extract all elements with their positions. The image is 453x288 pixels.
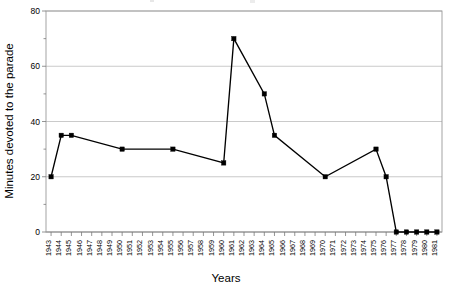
- x-tick-label-1953: 1953: [146, 240, 155, 256]
- x-axis-title: Years: [212, 272, 241, 284]
- x-tick-label-1962: 1962: [237, 240, 246, 256]
- x-tick-label-1948: 1948: [95, 240, 104, 256]
- y-tick-label-0: 0: [35, 227, 40, 237]
- x-tick-label-1972: 1972: [339, 240, 348, 256]
- x-tick-label-1971: 1971: [328, 240, 337, 256]
- x-tick-label-1956: 1956: [176, 240, 185, 256]
- data-point-1976: [384, 175, 388, 179]
- data-point-1977: [394, 230, 398, 234]
- x-tick-label-1957: 1957: [186, 240, 195, 256]
- x-tick-label-1963: 1963: [247, 240, 256, 256]
- x-tick-label-1943: 1943: [44, 240, 53, 256]
- data-point-1975: [374, 147, 378, 151]
- data-point-1950: [120, 147, 124, 151]
- data-point-1964: [262, 92, 266, 96]
- data-point-1981: [435, 230, 439, 234]
- x-tick-label-1974: 1974: [359, 240, 368, 256]
- x-tick-label-1967: 1967: [288, 240, 297, 256]
- x-tick-label-1969: 1969: [308, 240, 317, 256]
- data-point-1980: [425, 230, 429, 234]
- y-tick-label-40: 40: [31, 117, 41, 127]
- x-tick-label-1945: 1945: [64, 240, 73, 256]
- x-tick-label-1965: 1965: [267, 240, 276, 256]
- x-tick-label-1952: 1952: [135, 240, 144, 256]
- data-point-1965: [272, 133, 276, 137]
- y-tick-label-20: 20: [31, 172, 41, 182]
- x-tick-label-1973: 1973: [349, 240, 358, 256]
- y-tick-label-80: 80: [31, 6, 41, 16]
- x-tick-label-1966: 1966: [278, 240, 287, 256]
- x-tick-label-1950: 1950: [115, 240, 124, 256]
- data-point-1943: [49, 175, 53, 179]
- x-tick-label-1964: 1964: [257, 240, 266, 256]
- data-point-1979: [414, 230, 418, 234]
- x-axis-tick-labels: 1943194419451946194719481949195019511952…: [44, 240, 439, 256]
- x-tick-label-1970: 1970: [318, 240, 327, 256]
- chart-canvas: 020406080 194319441945194619471948194919…: [0, 0, 453, 288]
- x-tick-label-1944: 1944: [54, 240, 63, 256]
- x-tick-label-1951: 1951: [125, 240, 134, 256]
- x-tick-label-1947: 1947: [85, 240, 94, 256]
- y-tick-label-60: 60: [31, 61, 41, 71]
- data-point-1945: [69, 133, 73, 137]
- data-point-1944: [59, 133, 63, 137]
- x-tick-label-1959: 1959: [207, 240, 216, 256]
- x-tick-label-1960: 1960: [217, 240, 226, 256]
- x-tick-label-1968: 1968: [298, 240, 307, 256]
- x-tick-label-1975: 1975: [369, 240, 378, 256]
- data-point-1970: [323, 175, 327, 179]
- x-tick-label-1949: 1949: [105, 240, 114, 256]
- data-point-1960: [221, 161, 225, 165]
- line-chart: 020406080 194319441945194619471948194919…: [0, 0, 453, 288]
- data-point-1978: [404, 230, 408, 234]
- x-tick-label-1961: 1961: [227, 240, 236, 256]
- x-tick-label-1978: 1978: [399, 240, 408, 256]
- data-point-1955: [171, 147, 175, 151]
- x-tick-label-1976: 1976: [379, 240, 388, 256]
- x-tick-label-1977: 1977: [389, 240, 398, 256]
- x-tick-label-1981: 1981: [430, 240, 439, 256]
- x-tick-label-1980: 1980: [420, 240, 429, 256]
- x-tick-label-1955: 1955: [166, 240, 175, 256]
- x-tick-label-1954: 1954: [156, 240, 165, 256]
- x-tick-label-1958: 1958: [196, 240, 205, 256]
- data-point-1961: [232, 36, 236, 40]
- x-tick-label-1946: 1946: [75, 240, 84, 256]
- y-axis-title: Minutes devoted to the parade: [3, 43, 15, 198]
- x-tick-label-1979: 1979: [410, 240, 419, 256]
